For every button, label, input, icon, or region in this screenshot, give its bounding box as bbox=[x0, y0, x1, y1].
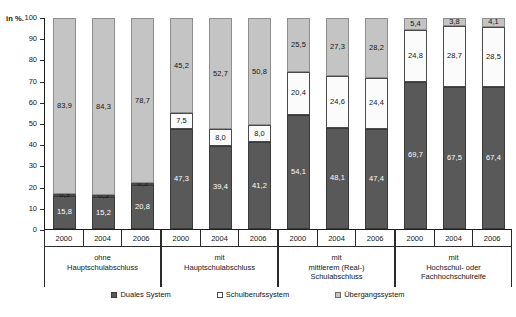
bar-value-label: 27,3 bbox=[330, 43, 345, 51]
x-axis-year-label: 2006 bbox=[121, 230, 160, 246]
bar-value-label: 4,1 bbox=[488, 18, 499, 26]
x-axis-year-row: 200020042006 bbox=[45, 230, 160, 247]
bar-value-label: 69,7 bbox=[408, 151, 423, 159]
x-axis-category-label: mitHauptschulabschluss bbox=[162, 247, 277, 272]
bar-value-label: 3,8 bbox=[449, 18, 460, 26]
legend-swatch-icon bbox=[111, 292, 117, 298]
x-axis-year-label: 2004 bbox=[200, 230, 239, 246]
x-axis-group: 200020042006mitHauptschulabschluss bbox=[161, 230, 278, 287]
bars-layer: 15,80,383,915,20,584,320,80,578,747,37,5… bbox=[45, 18, 512, 229]
segment-uebergangssystem: 84,3 bbox=[92, 18, 115, 195]
x-axis-category-label: mitHochschul- oderFachhochschulreife bbox=[396, 247, 511, 282]
segment-uebergangssystem: 78,7 bbox=[131, 18, 154, 183]
y-axis-ticks: 0102030405060708090100 bbox=[0, 18, 44, 230]
bar-value-label: 15,2 bbox=[96, 209, 111, 217]
segment-uebergangssystem: 28,2 bbox=[365, 18, 388, 78]
bar: 41,28,050,8 bbox=[248, 18, 271, 229]
bar: 48,124,627,3 bbox=[326, 18, 349, 229]
y-axis-tick-label: 70 bbox=[29, 78, 37, 86]
x-axis-year-label: 2000 bbox=[162, 230, 200, 246]
bar: 15,20,584,3 bbox=[92, 18, 115, 229]
legend-swatch-icon bbox=[217, 292, 223, 298]
segment-duales-system: 15,2 bbox=[92, 197, 115, 229]
segment-uebergangssystem: 27,3 bbox=[326, 18, 349, 76]
bar-value-label: 39,4 bbox=[213, 183, 228, 191]
legend-item: Schulberufssystem bbox=[217, 290, 289, 299]
x-axis-year-label: 2004 bbox=[434, 230, 473, 246]
x-axis-year-label: 2000 bbox=[396, 230, 434, 246]
y-axis-tick-label: 50 bbox=[29, 120, 37, 128]
bar-value-label: 67,4 bbox=[486, 154, 501, 162]
x-axis-year-row: 200020042006 bbox=[396, 230, 511, 247]
x-axis-group: 200020042006mitHochschul- oderFachhochsc… bbox=[395, 230, 512, 287]
segment-duales-system: 39,4 bbox=[209, 146, 232, 229]
x-axis-group: 200020042006mitmittlerem (Real-)Schulabs… bbox=[278, 230, 395, 287]
bar-value-label: 28,7 bbox=[447, 52, 462, 60]
segment-duales-system: 69,7 bbox=[404, 82, 427, 229]
x-axis-year-row: 200020042006 bbox=[162, 230, 277, 247]
x-axis-category-line: Schulabschluss bbox=[279, 272, 394, 282]
bar-value-label: 24,6 bbox=[330, 98, 345, 106]
segment-duales-system: 67,5 bbox=[443, 87, 466, 229]
bar-value-label: 28,5 bbox=[486, 53, 501, 61]
chart-legend: Duales SystemSchulberufssystemÜbergangss… bbox=[0, 290, 516, 299]
segment-schulberufssystem: 24,8 bbox=[404, 30, 427, 82]
bar-value-label: 47,4 bbox=[369, 175, 384, 183]
bar: 15,80,383,9 bbox=[53, 18, 76, 229]
segment-duales-system: 47,3 bbox=[170, 129, 193, 229]
x-axis-year-label: 2004 bbox=[317, 230, 356, 246]
x-axis-year-row: 200020042006 bbox=[279, 230, 394, 247]
bar-value-label: 52,7 bbox=[213, 70, 228, 78]
bar-value-label: 47,3 bbox=[174, 175, 189, 183]
y-axis-tick-label: 30 bbox=[29, 162, 37, 170]
x-axis-category-line: ohne bbox=[45, 253, 160, 263]
x-axis: 200020042006ohneHauptschulabschluss20002… bbox=[44, 230, 512, 287]
segment-schulberufssystem: 8,0 bbox=[248, 125, 271, 142]
segment-uebergangssystem: 52,7 bbox=[209, 18, 232, 129]
x-axis-category-line: mittlerem (Real-) bbox=[279, 263, 394, 273]
segment-schulberufssystem: 24,4 bbox=[365, 78, 388, 129]
bar-value-label: 5,4 bbox=[410, 20, 421, 28]
bar-value-label: 20,4 bbox=[291, 89, 306, 97]
segment-schulberufssystem: 20,4 bbox=[287, 72, 310, 115]
segment-schulberufssystem: 8,0 bbox=[209, 129, 232, 146]
bar-value-label: 15,8 bbox=[57, 208, 72, 216]
bar-value-label: 67,5 bbox=[447, 154, 462, 162]
bar: 54,120,425,5 bbox=[287, 18, 310, 229]
segment-schulberufssystem: 7,5 bbox=[170, 113, 193, 129]
segment-schulberufssystem: 28,5 bbox=[482, 27, 505, 87]
x-axis-year-label: 2006 bbox=[238, 230, 277, 246]
segment-duales-system: 47,4 bbox=[365, 129, 388, 229]
bar-value-label: 54,1 bbox=[291, 168, 306, 176]
y-axis-tick-label: 100 bbox=[24, 14, 37, 22]
y-axis-tick-label: 0 bbox=[33, 226, 37, 234]
bar-value-label: 84,3 bbox=[96, 103, 111, 111]
segment-uebergangssystem: 45,2 bbox=[170, 18, 193, 113]
segment-duales-system: 20,8 bbox=[131, 185, 154, 229]
x-axis-year-label: 2004 bbox=[83, 230, 122, 246]
y-axis-tick-label: 20 bbox=[29, 184, 37, 192]
y-axis-tick-label: 60 bbox=[29, 99, 37, 107]
plot-area: 15,80,383,915,20,584,320,80,578,747,37,5… bbox=[44, 18, 512, 230]
x-axis-year-label: 2000 bbox=[279, 230, 317, 246]
bar-value-label: 8,0 bbox=[254, 130, 265, 138]
segment-duales-system: 48,1 bbox=[326, 128, 349, 229]
legend-swatch-icon bbox=[335, 292, 341, 298]
segment-uebergangssystem: 5,4 bbox=[404, 18, 427, 29]
bar: 67,428,54,1 bbox=[482, 18, 505, 229]
bar-value-label: 8,0 bbox=[215, 134, 226, 142]
bar-value-label: 78,7 bbox=[135, 97, 150, 105]
x-axis-category-line: mit bbox=[279, 253, 394, 263]
bar-value-label: 24,4 bbox=[369, 99, 384, 107]
bar: 20,80,578,7 bbox=[131, 18, 154, 229]
bar-value-label: 25,5 bbox=[291, 41, 306, 49]
bar-value-label: 41,2 bbox=[252, 182, 267, 190]
y-axis-tick-label: 40 bbox=[29, 141, 37, 149]
segment-duales-system: 15,8 bbox=[53, 196, 76, 229]
bar-value-label: 7,5 bbox=[176, 117, 187, 125]
stacked-bar-chart: in %. 0102030405060708090100 15,80,383,9… bbox=[0, 0, 516, 317]
legend-label: Schulberufssystem bbox=[226, 290, 289, 299]
bar-value-label: 45,2 bbox=[174, 62, 189, 70]
segment-duales-system: 67,4 bbox=[482, 87, 505, 229]
segment-uebergangssystem: 25,5 bbox=[287, 18, 310, 72]
